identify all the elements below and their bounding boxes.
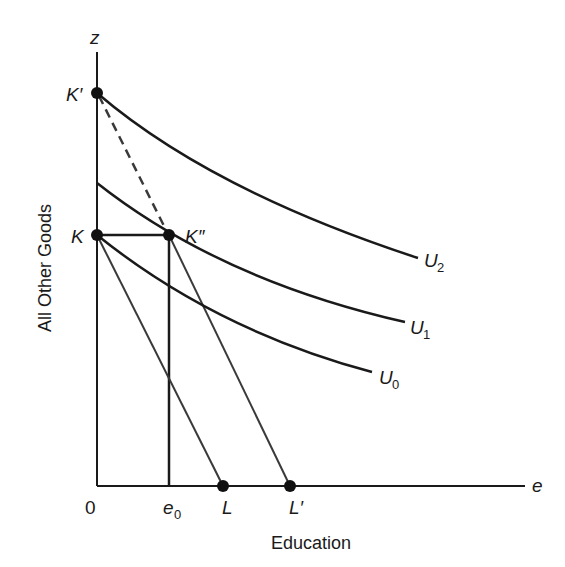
point-l-prime — [284, 480, 296, 492]
indifference-diagram: z e K′ K K″ L L′ 0 e 0 U 2 U 1 U 0 Educa… — [0, 0, 565, 567]
label-u2-sub: 2 — [437, 260, 444, 275]
budget-line-k2l2 — [169, 235, 290, 486]
e0-subscript: 0 — [174, 507, 181, 522]
budget-line-kl — [97, 235, 223, 486]
point-k — [91, 229, 103, 241]
indifference-curve-u0 — [97, 235, 372, 372]
y-axis-title: All Other Goods — [35, 204, 55, 332]
x-axis-symbol: e — [532, 475, 543, 496]
indifference-curve-u1 — [97, 183, 405, 322]
label-u0: U — [379, 367, 393, 388]
point-k-double-prime — [163, 229, 175, 241]
label-l-prime: L′ — [289, 497, 305, 518]
label-u1: U — [410, 317, 424, 338]
origin-label: 0 — [85, 497, 96, 518]
e0-label: e — [163, 497, 174, 518]
label-u2: U — [424, 250, 438, 271]
label-u0-sub: 0 — [392, 377, 399, 392]
label-k: K — [71, 226, 85, 247]
label-k-double-prime: K″ — [185, 226, 206, 247]
label-u1-sub: 1 — [423, 327, 430, 342]
point-l — [217, 480, 229, 492]
point-k-prime — [91, 87, 103, 99]
dashed-budget-line — [99, 96, 167, 232]
label-k-prime: K′ — [66, 84, 84, 105]
x-axis-title: Education — [271, 533, 351, 553]
indifference-curve-u2 — [97, 93, 418, 258]
y-axis-symbol: z — [89, 27, 100, 48]
label-l: L — [222, 497, 233, 518]
